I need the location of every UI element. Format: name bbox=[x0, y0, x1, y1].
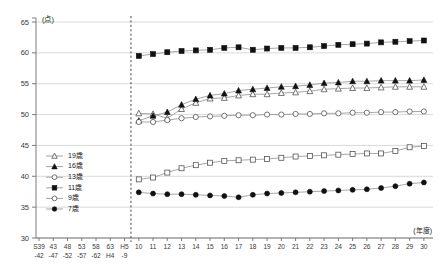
data-point-open-circle bbox=[136, 119, 141, 124]
data-point-filled-square bbox=[136, 53, 141, 58]
data-point-open-square bbox=[136, 177, 141, 182]
x-tick-label-secondary: -42 bbox=[34, 252, 44, 259]
data-point-open-square bbox=[350, 152, 355, 157]
data-point-filled-square bbox=[179, 49, 184, 54]
data-point-open-square bbox=[265, 157, 270, 162]
data-point-filled-circle bbox=[222, 194, 227, 199]
legend-label: 19歳 bbox=[68, 151, 83, 159]
data-point-open-circle bbox=[321, 111, 326, 116]
data-point-filled-square bbox=[307, 45, 312, 50]
data-point-open-square bbox=[421, 144, 426, 149]
x-tick-label: 28 bbox=[392, 243, 400, 250]
y-tick-label: 60 bbox=[21, 48, 29, 57]
x-tick-label: 13 bbox=[178, 243, 186, 250]
legend-label: 16歳 bbox=[68, 161, 83, 169]
y-tick-label: 45 bbox=[21, 141, 29, 150]
data-point-filled-circle bbox=[165, 192, 170, 197]
data-point-open-circle bbox=[350, 110, 355, 115]
legend-label: 7歳 bbox=[68, 204, 79, 212]
x-tick-label: 18 bbox=[249, 243, 257, 250]
x-tick-label: 20 bbox=[278, 243, 286, 250]
data-point-open-square bbox=[236, 158, 241, 163]
data-point-filled-square bbox=[236, 45, 241, 50]
data-point-filled-circle bbox=[208, 193, 213, 198]
legend-item-19歳: 19歳 bbox=[46, 151, 83, 159]
data-point-open-square bbox=[151, 175, 156, 180]
x-tick-label: 10 bbox=[135, 243, 143, 250]
data-point-open-circle bbox=[393, 110, 398, 115]
data-point-open-circle bbox=[264, 112, 269, 117]
data-point-filled-circle bbox=[136, 190, 141, 195]
data-point-filled-circle bbox=[364, 187, 369, 192]
data-point-filled-square bbox=[250, 47, 255, 52]
x-tick-label-secondary: -52 bbox=[63, 252, 73, 259]
x-tick-group: S394348535863H51011121314151617181920212… bbox=[33, 238, 428, 259]
data-point-filled-triangle bbox=[179, 102, 185, 108]
x-tick-label: 15 bbox=[206, 243, 214, 250]
legend-item-9歳: 9歳 bbox=[46, 193, 79, 201]
x-tick-label: H5 bbox=[120, 243, 129, 250]
x-tick-label-secondary: -9 bbox=[122, 252, 128, 259]
legend-item-11歳: 11歳 bbox=[46, 183, 82, 191]
y-axis-unit-label: (点) bbox=[42, 15, 54, 24]
data-point-open-circle bbox=[379, 110, 384, 115]
data-point-filled-circle bbox=[336, 188, 341, 193]
data-point-open-circle bbox=[307, 111, 312, 116]
x-tick-label: 22 bbox=[306, 243, 314, 250]
x-tick-label-secondary: -57 bbox=[77, 252, 87, 259]
data-point-open-square bbox=[307, 153, 312, 158]
data-point-open-circle bbox=[279, 112, 284, 117]
x-tick-label: 12 bbox=[164, 243, 172, 250]
x-tick-label: 53 bbox=[78, 243, 86, 250]
data-point-filled-square bbox=[407, 39, 412, 44]
data-point-filled-circle bbox=[421, 180, 426, 185]
data-point-open-circle bbox=[407, 109, 412, 114]
data-point-open-circle bbox=[421, 109, 426, 114]
data-point-open-square bbox=[165, 170, 170, 175]
data-point-filled-square bbox=[293, 45, 298, 50]
data-point-filled-square bbox=[336, 42, 341, 47]
data-point-open-square bbox=[379, 151, 384, 156]
legend-label: 13歳 bbox=[68, 172, 83, 180]
data-point-open-square bbox=[279, 155, 284, 160]
data-point-open-circle bbox=[250, 113, 255, 118]
x-axis-title: (年度) bbox=[413, 226, 432, 235]
data-point-filled-square bbox=[208, 47, 213, 52]
x-tick-label: 63 bbox=[107, 243, 115, 250]
x-tick-label: 58 bbox=[92, 243, 100, 250]
data-point-filled-square bbox=[52, 186, 57, 191]
data-point-filled-circle bbox=[407, 181, 412, 186]
x-tick-label: 14 bbox=[192, 243, 200, 250]
data-point-filled-square bbox=[193, 48, 198, 53]
grid-group: 3035404550556065 bbox=[21, 18, 433, 243]
data-point-filled-circle bbox=[393, 184, 398, 189]
data-point-filled-circle bbox=[179, 192, 184, 197]
legend-label: 9歳 bbox=[68, 193, 79, 201]
series-7歳 bbox=[136, 180, 426, 200]
x-tick-label: 24 bbox=[335, 243, 343, 250]
data-point-open-square bbox=[336, 152, 341, 157]
x-tick-label: 23 bbox=[320, 243, 328, 250]
x-tick-label: 16 bbox=[221, 243, 229, 250]
x-tick-label: 26 bbox=[363, 243, 371, 250]
y-tick-label: 35 bbox=[21, 203, 29, 212]
data-point-filled-square bbox=[322, 44, 327, 49]
legend-label: 11歳 bbox=[68, 183, 82, 191]
axis-group bbox=[32, 18, 433, 238]
data-point-open-circle bbox=[165, 118, 170, 123]
data-point-open-square bbox=[222, 158, 227, 163]
data-point-open-circle bbox=[222, 113, 227, 118]
data-point-filled-circle bbox=[379, 186, 384, 191]
data-point-open-circle bbox=[336, 111, 341, 116]
x-tick-label: S39 bbox=[33, 243, 45, 250]
data-point-open-square bbox=[322, 153, 327, 158]
data-point-open-triangle bbox=[136, 110, 142, 116]
data-point-filled-square bbox=[350, 42, 355, 47]
data-point-filled-square bbox=[165, 50, 170, 55]
x-tick-label: 25 bbox=[349, 243, 357, 250]
x-tick-label: 48 bbox=[64, 243, 72, 250]
chart-figure: 3035404550556065(点)(年度)S394348535863H510… bbox=[0, 0, 440, 276]
y-tick-label: 50 bbox=[21, 110, 29, 119]
x-tick-label: 17 bbox=[235, 243, 243, 250]
data-point-filled-circle bbox=[307, 189, 312, 194]
